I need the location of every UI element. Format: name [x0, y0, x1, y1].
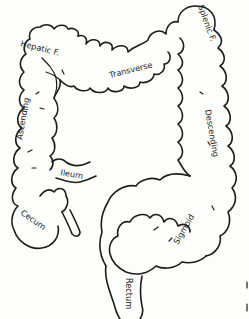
colon-diagram: Hepatic F. Transverse Splenic F. Ascendi… [0, 0, 249, 319]
colon-drawing: Hepatic F. Transverse Splenic F. Ascendi… [0, 0, 249, 319]
appendix [62, 210, 80, 236]
transverse-colon-top [78, 6, 215, 52]
label-ileum: Ileum [60, 167, 84, 181]
hepatic-inner-fold [42, 58, 57, 98]
label-sigmoid: Sigmoid [171, 212, 196, 246]
descending-colon-inner [178, 38, 190, 176]
hepatic-inner-fold-2 [46, 72, 60, 80]
rectum-wall [140, 276, 143, 319]
label-rectum: Rectum [124, 278, 134, 309]
label-descending: Descending [203, 109, 221, 158]
ileum-top [52, 159, 90, 166]
label-cecum: Cecum [19, 207, 48, 232]
label-ascending: Ascending [14, 97, 31, 141]
cecum-fold [40, 189, 68, 212]
sigmoid-colon-outer [100, 174, 190, 319]
label-transverse: Transverse [107, 60, 153, 81]
